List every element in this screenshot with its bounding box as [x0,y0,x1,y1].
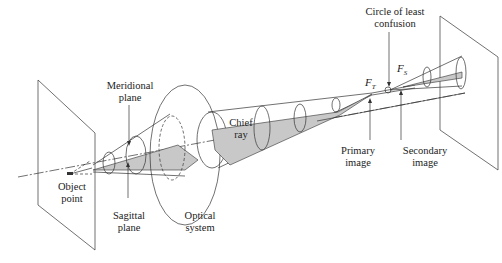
circle-least-confusion-label: Circle of least confusion [355,6,435,30]
f-s-label: FS [397,62,407,77]
secondary-image-label: Secondary image [398,145,452,169]
f-s-sub: S [404,69,408,77]
f-t-sub: T [372,83,376,91]
object-point-label: Object point [52,181,92,205]
f-t-label: FT [365,76,376,91]
meridional-plane-label: Meridional plane [104,80,156,104]
sagittal-plane-label: Sagittal plane [107,210,151,234]
f-t-base: F [365,76,372,88]
chief-ray-label: Chief ray [224,117,258,141]
primary-image-label: Primary image [335,145,381,169]
f-s-base: F [397,62,404,74]
object-plane [38,80,95,250]
optical-system-label: Optical system [178,210,222,234]
object-point-marker [67,172,73,175]
